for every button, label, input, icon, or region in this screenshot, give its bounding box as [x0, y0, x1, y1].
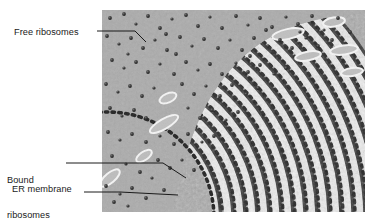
label-er-membrane: ER membrane	[12, 184, 72, 196]
micrograph-canvas	[102, 10, 365, 212]
micrograph-image	[102, 10, 365, 212]
label-bound-ribosomes-line2: ribosomes	[7, 210, 50, 222]
figure-container: Free ribosomes Bound ribosomes ER membra…	[0, 0, 375, 222]
label-free-ribosomes: Free ribosomes	[14, 27, 79, 39]
